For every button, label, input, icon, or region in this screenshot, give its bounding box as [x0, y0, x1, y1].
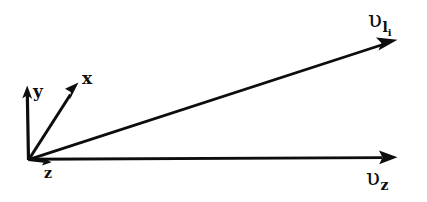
axis-y [22, 86, 32, 161]
vector-subscript-z: z [380, 177, 388, 193]
vector-label-v-li: υli [368, 8, 392, 31]
vector-diagram-figure: y x z υli υz [0, 0, 427, 202]
vector-subscript-l: l [382, 19, 387, 35]
vector-label-v-z: υz [366, 166, 388, 189]
vector-canvas [0, 0, 427, 202]
vector-glyph-upsilon: υ [366, 164, 380, 190]
vector-v-z [29, 151, 398, 165]
vector-v-li [29, 38, 398, 160]
vector-glyph-upsilon: υ [368, 6, 382, 32]
vector-subsubscript-i: i [388, 27, 392, 38]
axis-label-x: x [82, 70, 92, 87]
axis-label-z: z [44, 166, 52, 180]
axis-label-y: y [33, 83, 43, 100]
